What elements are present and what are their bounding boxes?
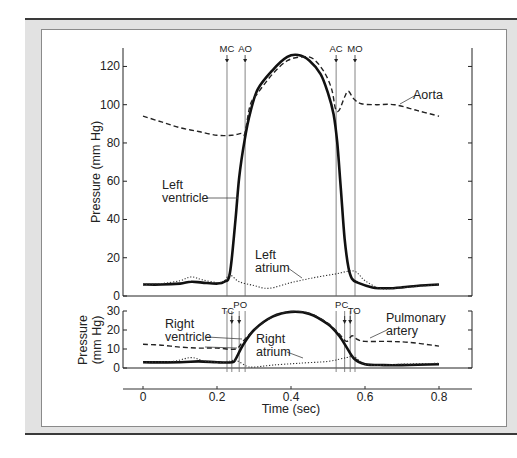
y-tick-label: 120 (100, 59, 120, 73)
pa-leader (370, 330, 387, 338)
down-arrow-icon (348, 320, 352, 324)
down-arrow-icon (237, 320, 241, 324)
rv-leader (207, 337, 242, 339)
y-tick-label: 80 (107, 136, 121, 150)
event-label-ao: AO (238, 43, 252, 54)
upper-curves (143, 55, 439, 289)
event-label-mo: MO (347, 43, 362, 54)
down-arrow-icon (334, 59, 338, 63)
curve-aorta (143, 57, 439, 136)
la-label-line1: Left (255, 248, 276, 262)
la-label-line2: atrium (255, 261, 290, 275)
upper-y-axis-title: Pressure (mm Hg) (89, 121, 103, 223)
ra-label-line2: atrium (256, 345, 291, 359)
y-tick-label: 30 (107, 304, 121, 318)
x-tick-label: 0.8 (431, 390, 448, 404)
down-arrow-icon (225, 59, 229, 63)
y-tick-label: 60 (107, 174, 121, 188)
down-arrow-icon (243, 59, 247, 63)
y-tick-label: 100 (100, 98, 120, 112)
x-axis-title: Time (sec) (262, 402, 321, 416)
pa-label-line1: Pulmonary (386, 311, 446, 325)
curve-left-atrium (143, 271, 439, 289)
event-label-pc: PC (335, 299, 348, 310)
rv-label-line1: Right (165, 317, 195, 331)
lower-y-axis-title-line1: Pressure (76, 315, 90, 365)
event-label-po: PO (233, 299, 247, 310)
aorta-label: Aorta (413, 88, 443, 102)
rv-label-line2: ventricle (165, 330, 212, 344)
event-label-ac: AC (330, 43, 343, 54)
down-arrow-icon (230, 320, 234, 324)
down-arrow-icon (343, 320, 347, 324)
y-tick-label: 0 (113, 289, 120, 303)
curve-left-ventricle (143, 55, 439, 289)
ra-label-line1: Right (256, 332, 286, 346)
x-tick-label: 0.6 (357, 390, 374, 404)
down-arrow-icon (353, 59, 357, 63)
pressure-chart: 020406080100120 0102030 00.20.40.60.8 MC… (0, 0, 517, 458)
event-label-to: TO (348, 305, 361, 316)
x-tick-label: 0 (140, 390, 147, 404)
y-tick-label: 10 (107, 342, 121, 356)
upper-plot-axes (123, 48, 472, 296)
x-tick-label: 0.2 (209, 390, 226, 404)
pa-label-line2: artery (386, 324, 419, 338)
lower-y-axis-title-line2: (mm Hg) (90, 316, 104, 365)
y-tick-label: 20 (107, 323, 121, 337)
y-tick-label: 20 (107, 251, 121, 265)
y-tick-label: 0 (113, 361, 120, 375)
lv-label-line1: Left (162, 178, 183, 192)
la-leader (288, 268, 302, 278)
y-tick-label: 40 (107, 212, 121, 226)
event-label-mc: MC (220, 43, 235, 54)
lv-label-line2: ventricle (162, 191, 209, 205)
